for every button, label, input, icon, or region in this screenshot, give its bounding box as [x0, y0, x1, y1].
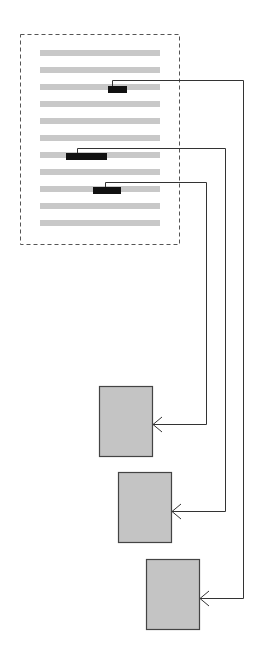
target-boxes	[100, 387, 200, 630]
text-line	[40, 203, 160, 209]
text-line	[40, 135, 160, 141]
diagram-canvas	[0, 0, 262, 670]
highlight-2	[66, 153, 107, 160]
text-line	[40, 118, 160, 124]
target-box-1	[100, 387, 153, 457]
text-line	[40, 50, 160, 56]
text-line	[40, 101, 160, 107]
text-line	[40, 84, 160, 90]
text-line	[40, 67, 160, 73]
target-box-2	[119, 473, 172, 543]
highlight-3	[93, 187, 121, 194]
source-document	[21, 35, 180, 245]
target-box-3	[147, 560, 200, 630]
highlight-1	[108, 86, 127, 93]
text-line	[40, 169, 160, 175]
text-line	[40, 220, 160, 226]
